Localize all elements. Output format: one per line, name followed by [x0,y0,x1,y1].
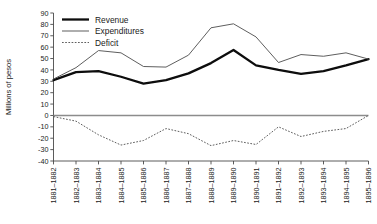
x-tick-label: 1883–1884 [94,168,103,204]
x-tick-label: 1891–1892 [274,168,283,204]
x-tick-label: 1881–1882 [49,168,58,204]
legend-label-revenue: Revenue [95,15,129,25]
x-tick-label: 1892–1893 [297,168,306,204]
x-tick-label: 1884–1885 [117,168,126,204]
legend-group: RevenueExpendituresDeficit [62,15,144,48]
y-axis-ticks-group: 9080706050403020100-10-20-30-40 [38,9,53,166]
x-tick-label: 1882–1883 [72,168,81,204]
y-tick-label: 50 [41,54,49,63]
y-tick-label: 0 [45,111,49,120]
x-tick-label: 1895–1896 [364,168,373,204]
y-tick-label: 30 [41,77,49,86]
x-tick-label: 1894–1895 [342,168,351,204]
x-tick-label: 1890–1891 [252,168,261,204]
x-tick-label: 1888–1889 [207,168,216,204]
y-tick-label: -40 [38,157,48,166]
x-tick-label: 1887–1888 [184,168,193,204]
y-tick-label: 40 [41,66,49,75]
y-axis-title: Millions of pesos [4,59,13,115]
series-line-deficit [54,115,369,145]
y-tick-label: 80 [41,20,49,29]
x-tick-label: 1893–1894 [319,168,328,204]
series-line-revenue [54,50,369,84]
y-tick-label: 60 [41,43,49,52]
y-tick-label: -20 [38,134,48,143]
y-tick-label: 70 [41,31,49,40]
y-axis-title-group: Millions of pesos [4,59,13,115]
y-tick-label: -30 [38,145,48,154]
legend-label-expenditures: Expenditures [95,26,144,36]
x-tick-label: 1889–1890 [229,168,238,204]
chart-container: Millions of pesos 9080706050403020100-10… [0,0,377,224]
y-tick-label: 20 [41,88,49,97]
y-tick-label: 90 [41,9,49,18]
x-tick-label: 1885–1886 [139,168,148,204]
x-tick-label: 1886–1887 [162,168,171,204]
legend-label-deficit: Deficit [95,38,119,48]
y-tick-label: -10 [38,122,48,131]
y-tick-label: 10 [41,100,49,109]
line-chart: Millions of pesos 9080706050403020100-10… [0,0,377,224]
x-axis-ticks-group: 1881–18821882–18831883–18841884–18851885… [49,161,373,203]
